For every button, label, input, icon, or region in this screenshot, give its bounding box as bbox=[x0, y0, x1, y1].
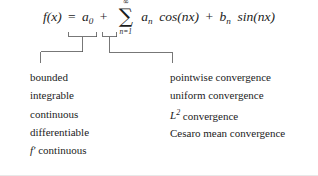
l2-space-symbol: L2 bbox=[170, 109, 180, 121]
equals-sign: = bbox=[65, 9, 79, 24]
mid-plus-sign: + bbox=[202, 9, 216, 24]
f-prime-symbol: f′ bbox=[30, 144, 35, 156]
underbrace-equals bbox=[103, 32, 117, 37]
list-item: continuous bbox=[30, 105, 89, 123]
list-item: Cesaro mean convergence bbox=[170, 124, 285, 142]
function-properties-list: bounded integrable continuous differenti… bbox=[30, 68, 89, 159]
formula-lhs: f(x) bbox=[43, 9, 62, 24]
sigma-icon: ∑ bbox=[116, 8, 136, 25]
list-item: f′ continuous bbox=[30, 141, 89, 159]
list-item: pointwise convergence bbox=[170, 68, 285, 86]
cosine-term: cos(nx) bbox=[156, 9, 199, 24]
coefficient-an: an bbox=[141, 9, 152, 24]
sum-upper-limit: ∞ bbox=[116, 0, 136, 6]
list-item: differentiable bbox=[30, 123, 89, 141]
sum-lower-limit: n=1 bbox=[116, 28, 136, 36]
list-item: L2 convergence bbox=[170, 105, 285, 125]
summation-operator: ∞ ∑ n=1 bbox=[116, 8, 136, 25]
list-item: integrable bbox=[30, 86, 89, 104]
plus-sign: + bbox=[97, 9, 111, 24]
underbrace-lhs bbox=[69, 32, 97, 37]
connector-to-right-column bbox=[110, 53, 173, 63]
fourier-series-formula: f(x) = a0 + ∞ ∑ n=1 an cos(nx) + bn sin(… bbox=[0, 8, 318, 25]
figure-canvas: f(x) = a0 + ∞ ∑ n=1 an cos(nx) + bn sin(… bbox=[0, 0, 318, 176]
coefficient-a0: a0 bbox=[82, 9, 93, 24]
sine-term: sin(nx) bbox=[234, 9, 275, 24]
coefficient-bn: bn bbox=[219, 9, 230, 24]
list-item: uniform convergence bbox=[170, 86, 285, 104]
convergence-modes-list: pointwise convergence uniform convergenc… bbox=[170, 68, 285, 143]
list-item: bounded bbox=[30, 68, 89, 86]
connector-to-left-column bbox=[41, 52, 83, 63]
